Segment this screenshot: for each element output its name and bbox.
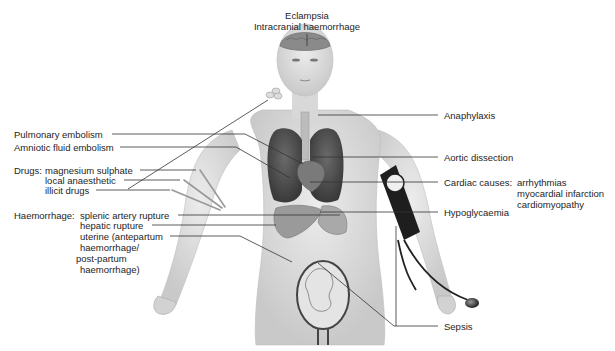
- label-amniotic-fluid-embolism: Amniotic fluid embolism: [14, 142, 114, 153]
- label-eclampsia: Eclampsia: [270, 10, 344, 21]
- label-cardiac-heading: Cardiac causes:: [444, 177, 512, 188]
- label-haemorrhage-heading: Haemorrhage:: [14, 210, 75, 221]
- label-drugs-heading: Drugs:: [14, 165, 42, 176]
- label-pulmonary-embolism: Pulmonary embolism: [14, 129, 103, 140]
- label-sepsis: Sepsis: [444, 321, 473, 332]
- label-anaphylaxis: Anaphylaxis: [444, 110, 495, 121]
- pills-icon: [266, 88, 282, 99]
- label-cardiac-mi: myocardial infarction: [517, 188, 604, 199]
- label-cardiac-cardiomyopathy: cardiomyopathy: [517, 199, 584, 210]
- label-hypoglycaemia: Hypoglycaemia: [444, 207, 509, 218]
- label-cardiac-arrhythmias: arrhythmias: [517, 177, 567, 188]
- label-haemorrhage-uterine-2: haemorrhage/: [80, 242, 139, 253]
- label-intracranial-haemorrhage: Intracranial haemorrhage: [250, 21, 364, 32]
- label-haemorrhage-uterine-4: haemorrhage): [80, 264, 140, 275]
- label-haemorrhage-uterine-3: post-partum: [76, 253, 127, 264]
- label-aortic-dissection: Aortic dissection: [444, 152, 513, 163]
- label-drug-illicit: illicit drugs: [45, 185, 89, 196]
- label-haemorrhage-hepatic: hepatic rupture: [80, 220, 143, 231]
- label-haemorrhage-uterine: uterine (antepartum: [80, 231, 163, 242]
